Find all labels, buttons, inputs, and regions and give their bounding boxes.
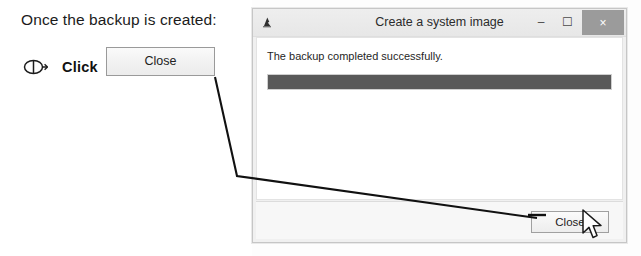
- close-icon: ×: [599, 17, 606, 29]
- close-window-button[interactable]: ×: [582, 10, 624, 35]
- mouse-click-icon: [23, 58, 49, 76]
- status-message: The backup completed successfully.: [267, 50, 443, 62]
- minimize-icon: –: [538, 16, 545, 28]
- instruction-heading: Once the backup is created:: [21, 11, 217, 29]
- maximize-button[interactable]: ☐: [554, 10, 580, 34]
- screenshot-root: Once the backup is created: Click Close: [0, 0, 641, 256]
- progress-bar-fill: [268, 75, 611, 89]
- mouse-pointer-arrow: [581, 209, 607, 243]
- minimize-button[interactable]: –: [528, 10, 554, 34]
- instruction-panel: Once the backup is created: Click Close: [0, 0, 252, 256]
- illustrated-close-button[interactable]: Close: [106, 47, 215, 76]
- illustrated-close-button-label: Close: [107, 54, 214, 68]
- dialog-titlebar[interactable]: Create a system image – ☐ ×: [253, 9, 626, 37]
- dialog-footer: Close: [256, 201, 623, 239]
- maximize-icon: ☐: [562, 16, 573, 28]
- create-system-image-dialog: Create a system image – ☐ × The backup c…: [252, 8, 627, 243]
- progress-bar: [267, 74, 612, 90]
- dialog-body: The backup completed successfully.: [256, 37, 623, 200]
- click-action-label: Click: [62, 59, 98, 75]
